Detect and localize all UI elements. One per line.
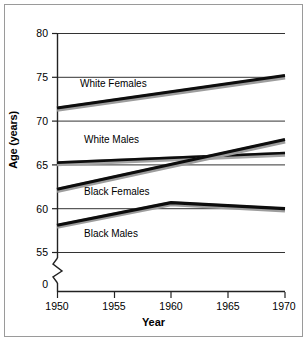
y-tick-label-60: 60 <box>22 203 48 215</box>
x-tick-label-1970: 1970 <box>261 300 307 312</box>
x-axis-title: Year <box>0 316 307 328</box>
y-tick-label-75: 75 <box>22 71 48 83</box>
y-tick-label-55: 55 <box>22 246 48 258</box>
series-label-black-males: Black Males <box>84 228 138 239</box>
y-axis-title: Age (years) <box>7 104 19 176</box>
y-tick-label-70: 70 <box>22 115 48 127</box>
y-tick-label-zero: 0 <box>22 278 48 290</box>
series-label-black-females: Black Females <box>84 186 150 197</box>
x-tick-marks <box>58 292 286 298</box>
series-label-white-females: White Females <box>80 78 147 89</box>
chart-figure: 80 75 70 65 60 55 0 1950 1955 1960 1965 … <box>0 0 307 341</box>
x-tick-label-1955: 1955 <box>91 300 137 312</box>
x-tick-label-1960: 1960 <box>148 300 194 312</box>
x-tick-label-1950: 1950 <box>34 300 80 312</box>
series-label-white-males: White Males <box>84 134 139 145</box>
y-tick-label-80: 80 <box>22 27 48 39</box>
y-tick-label-65: 65 <box>22 159 48 171</box>
x-tick-label-1965: 1965 <box>205 300 251 312</box>
axis-break-icon <box>53 258 62 283</box>
series-black-males <box>57 203 285 227</box>
series-white-males <box>57 153 285 164</box>
y-tick-marks <box>52 34 57 253</box>
